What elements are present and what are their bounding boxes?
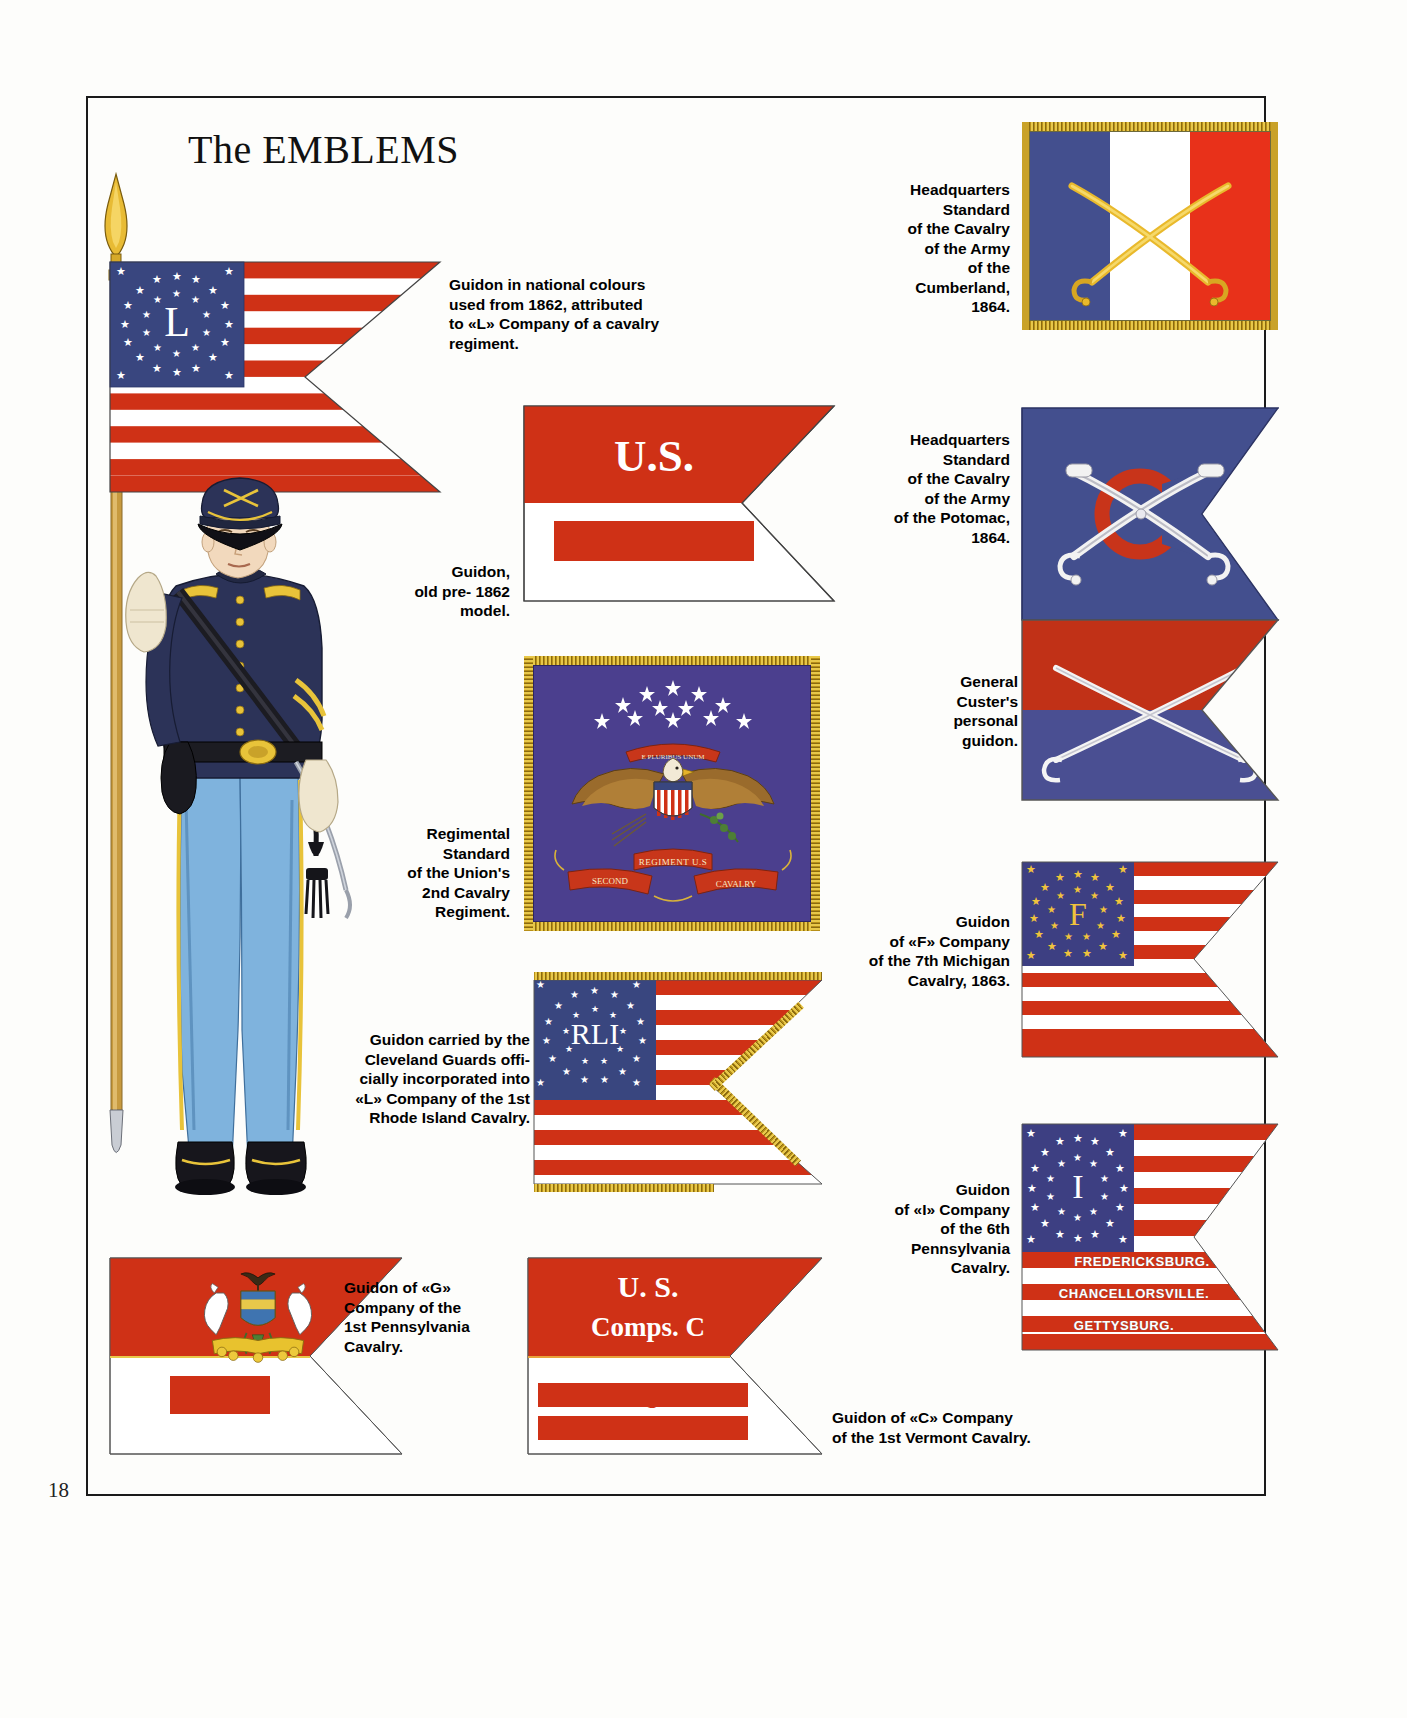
canton-star: ★	[142, 310, 151, 320]
canton-star: ★	[1090, 891, 1099, 901]
canton-star: ★	[590, 986, 599, 996]
canton-star: ★	[1063, 948, 1073, 959]
vermont-guidon-company-label: Comps. C	[548, 1314, 748, 1341]
canton-star: ★	[1030, 1163, 1040, 1174]
canton-star: ★	[1082, 932, 1091, 942]
canton-star: ★	[536, 1078, 545, 1088]
vermont-guidon-regiment-label: 1st. Regt. Vt.	[538, 1383, 748, 1407]
caption-custer-guidon: General Custer's personal guidon.	[932, 672, 1018, 750]
canton-star: ★	[1090, 872, 1100, 883]
canton-star: ★	[1050, 921, 1059, 931]
canton-star: ★	[123, 300, 133, 311]
canton-star: ★	[1100, 1174, 1109, 1184]
canton-star: ★	[619, 1027, 627, 1036]
pennsylvania-I-guidon-company-letter: I	[1022, 1170, 1134, 1204]
caption-hq-potomac: Headquarters Standard of the Cavalry of …	[880, 430, 1010, 547]
canton-star: ★	[153, 343, 162, 353]
canton-star: ★	[616, 1045, 624, 1054]
caption-guidon-pre1862: Guidon, old pre- 1862 model.	[370, 562, 510, 621]
canton-star: ★	[1090, 1136, 1100, 1147]
canton-star: ★	[1046, 1192, 1055, 1202]
svg-text:REGIMENT U.S: REGIMENT U.S	[639, 857, 707, 867]
canton-star: ★	[1115, 1163, 1125, 1174]
canton-star: ★	[1082, 948, 1092, 959]
flag-national-guidon-L: L ★★★★★★★★★★★★★★★★★★★★★★★★★★★★★★	[110, 262, 440, 492]
canton-star: ★	[1114, 896, 1124, 907]
canton-star: ★	[609, 1011, 617, 1020]
flag-custer-guidon	[1022, 620, 1278, 800]
canton-star: ★	[208, 285, 218, 296]
flag-pennsylvania-I-guidon: I ★★★★★★★★★★★★★★★★★★★★★★★★★★★★★★ FREDERI…	[1022, 1124, 1278, 1350]
canton-star: ★	[626, 1001, 635, 1011]
caption-guidon-national-1862: Guidon in national colours used from 186…	[449, 275, 689, 353]
caption-guidon-I-6th-pennsylvania: Guidon of «I» Company of the 6th Pennsyl…	[868, 1180, 1010, 1278]
canton-star: ★	[565, 1045, 573, 1054]
canton-star: ★	[600, 1075, 609, 1085]
canton-star: ★	[600, 1057, 608, 1066]
canton-star: ★	[220, 337, 230, 348]
canton-star: ★	[618, 1067, 627, 1077]
fringe-bottom	[534, 1184, 714, 1192]
canton-star: ★	[632, 980, 641, 990]
canton-star: ★	[581, 1057, 589, 1066]
canton-star: ★	[191, 363, 201, 374]
flag-rhode-island-RLI-guidon: RLI ★★★★★★★★★★★★★★★★★★★★★★★★★★★★	[528, 972, 828, 1192]
canton-star: ★	[1118, 1234, 1128, 1245]
battle-honour-2: CHANCELLORSVILLE.	[1024, 1286, 1244, 1301]
canton-star: ★	[1056, 891, 1065, 901]
pre1862-guidon-company-letter: F	[554, 521, 754, 561]
canton-star: ★	[153, 295, 162, 305]
page-title: The EMBLEMS	[188, 126, 459, 173]
canton-star: ★	[1118, 950, 1128, 961]
canton-star: ★	[191, 295, 200, 305]
fringe-top	[1022, 122, 1278, 131]
canton-star: ★	[172, 349, 181, 359]
canton-star: ★	[1040, 1147, 1050, 1158]
caption-guidon-F-7th-michigan: Guidon of «F» Company of the 7th Michiga…	[864, 912, 1010, 990]
canton-star: ★	[632, 1078, 641, 1088]
canton-star: ★	[544, 1017, 553, 1027]
canton-star: ★	[1055, 872, 1065, 883]
canton-star: ★	[542, 1036, 551, 1046]
canton-star: ★	[636, 1017, 645, 1027]
canton-star: ★	[172, 289, 181, 299]
canton-star: ★	[1026, 950, 1036, 961]
canton-star: ★	[1105, 1218, 1115, 1229]
canton-star: ★	[191, 274, 201, 285]
canton-star: ★	[191, 343, 200, 353]
canton-star: ★	[1118, 1128, 1128, 1139]
fringe-bottom	[1022, 321, 1278, 330]
canton-star: ★	[1027, 1183, 1037, 1194]
canton-star: ★	[220, 300, 230, 311]
illustrated-plate-page: The EMBLEMS 18	[0, 0, 1407, 1718]
canton-star: ★	[1096, 921, 1105, 931]
canton-star: ★	[142, 328, 151, 338]
canton-star: ★	[1047, 941, 1057, 952]
canton-star: ★	[202, 310, 211, 320]
vermont-guidon-cavalry-label: CAVALRY	[538, 1416, 748, 1440]
canton-star: ★	[1064, 932, 1073, 942]
canton-star: ★	[208, 352, 218, 363]
pre1862-guidon-us-label: U.S.	[554, 434, 754, 479]
canton-star: ★	[548, 1054, 557, 1064]
canton-star: ★	[1116, 913, 1126, 924]
canton-star: ★	[570, 990, 579, 1000]
canton-star: ★	[610, 990, 619, 1000]
battle-honour-3: GETTYSBURG.	[1024, 1318, 1224, 1333]
vermont-guidon-us-label: U. S.	[548, 1272, 748, 1302]
canton-star: ★	[1073, 1233, 1083, 1244]
canton-star: ★	[591, 1005, 599, 1014]
caption-hq-cumberland: Headquarters Standard of the Cavalry of …	[880, 180, 1010, 317]
canton-star: ★	[1073, 1213, 1082, 1223]
canton-star: ★	[1057, 1159, 1066, 1169]
canton-star: ★	[1040, 1218, 1050, 1229]
canton-star: ★	[1073, 1153, 1082, 1163]
flag-regimental-standard-2nd-cavalry: E PLURIBUS UNUM	[524, 656, 820, 931]
canton-star: ★	[120, 319, 130, 330]
canton-star: ★	[1034, 929, 1044, 940]
canton-star: ★	[1089, 1207, 1098, 1217]
canton-star: ★	[1026, 1128, 1036, 1139]
fringe-top	[534, 972, 822, 980]
canton-star: ★	[1031, 896, 1041, 907]
canton-star: ★	[123, 337, 133, 348]
